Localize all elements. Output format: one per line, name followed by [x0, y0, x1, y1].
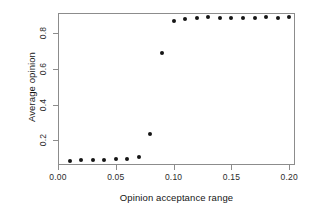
- y-tick-label: 0.6: [38, 60, 48, 78]
- y-tick-label: 0.8: [38, 24, 48, 42]
- x-tick-label: 0.00: [38, 172, 78, 182]
- x-tick-label: 0.15: [211, 172, 251, 182]
- y-tick: [53, 69, 58, 70]
- y-tick: [53, 33, 58, 34]
- x-tick-label: 0.05: [96, 172, 136, 182]
- x-tick: [231, 165, 232, 170]
- x-tick: [174, 165, 175, 170]
- y-tick: [53, 105, 58, 106]
- x-tick: [116, 165, 117, 170]
- y-axis-title: Average opinion: [26, 11, 38, 163]
- x-tick: [289, 165, 290, 170]
- y-tick-label: 0.2: [38, 131, 48, 149]
- x-tick: [58, 165, 59, 170]
- y-tick: [53, 140, 58, 141]
- scatter-plot-figure: 0.000.050.100.150.20 0.20.40.60.8 Opinio…: [0, 0, 312, 217]
- x-tick-label: 0.10: [154, 172, 194, 182]
- x-axis-title: Opinion acceptance range: [58, 192, 295, 204]
- x-tick-label: 0.20: [269, 172, 309, 182]
- plot-frame: [58, 13, 295, 165]
- y-tick-label: 0.4: [38, 96, 48, 114]
